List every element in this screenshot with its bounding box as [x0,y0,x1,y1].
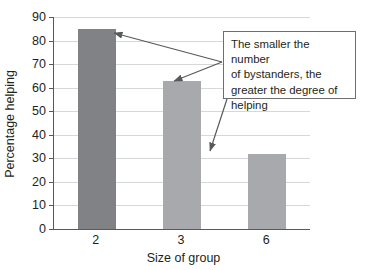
annotation-line: greater the degree of [231,83,349,98]
y-tick-mark [49,205,54,206]
x-tick-label: 3 [178,234,185,247]
y-tick-mark [49,88,54,89]
x-tick-label: 6 [263,234,270,247]
y-tick-label: 10 [32,199,46,212]
y-tick-label: 30 [32,152,46,165]
y-axis-title: Percentage helping [4,70,17,178]
y-tick-mark [49,135,54,136]
y-tick-label: 50 [32,105,46,118]
y-tick-label: 60 [32,81,46,94]
y-tick-label: 20 [32,176,46,189]
y-tick-mark [49,229,54,230]
y-tick-mark [49,41,54,42]
y-tick-mark [49,111,54,112]
y-tick-label: 40 [32,129,46,142]
bar [163,81,201,229]
bar [248,154,286,229]
y-tick-mark [49,64,54,65]
gridline [54,17,310,18]
y-tick-mark [49,158,54,159]
y-tick-label: 0 [39,223,46,236]
x-axis-title: Size of group [0,252,367,265]
bar-chart-figure: Percentage helping 0102030405060708090 2… [0,0,367,270]
annotation-line: The smaller the number [231,37,349,67]
y-tick-label: 90 [32,11,46,24]
x-tick-label: 2 [92,234,99,247]
y-tick-mark [49,17,54,18]
bar [78,29,116,229]
y-tick-label: 70 [32,58,46,71]
annotation-line: of bystanders, the [231,67,349,82]
annotation-textbox: The smaller the number of bystanders, th… [223,31,356,99]
annotation-line: helping [231,98,349,113]
y-tick-mark [49,182,54,183]
y-tick-label: 80 [32,34,46,47]
